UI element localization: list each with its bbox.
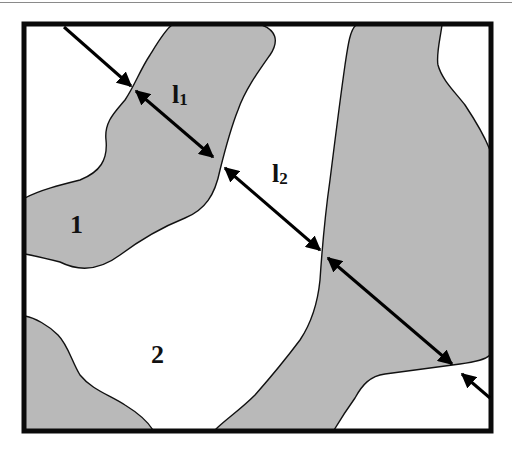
incoming-arrow-bottom-right xyxy=(462,374,490,398)
grain-phase1-lower-left xyxy=(25,316,153,430)
incoming-arrow-top-left xyxy=(64,27,131,86)
phase-regions xyxy=(25,25,490,430)
label-l2: l2 xyxy=(272,159,288,188)
microstructure-diagram: l1 l2 1 2 xyxy=(0,0,512,455)
label-phase2: 2 xyxy=(151,340,164,369)
label-phase1: 1 xyxy=(70,210,83,239)
grain-phase1-right xyxy=(215,25,490,430)
grain-phase1-upper-left xyxy=(25,25,275,268)
